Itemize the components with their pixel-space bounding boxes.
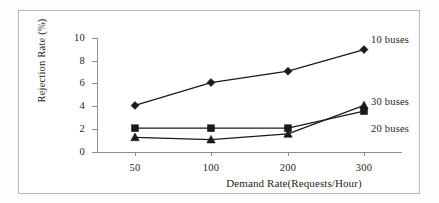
figure-canvas: Rejection Rate (%) 0 2 4 6 8 10 (0, 0, 439, 203)
series-line-20-buses (135, 111, 364, 128)
series-line-30-buses (135, 105, 364, 139)
series-plot-layer (0, 0, 439, 203)
series-line-10-buses (135, 50, 364, 106)
